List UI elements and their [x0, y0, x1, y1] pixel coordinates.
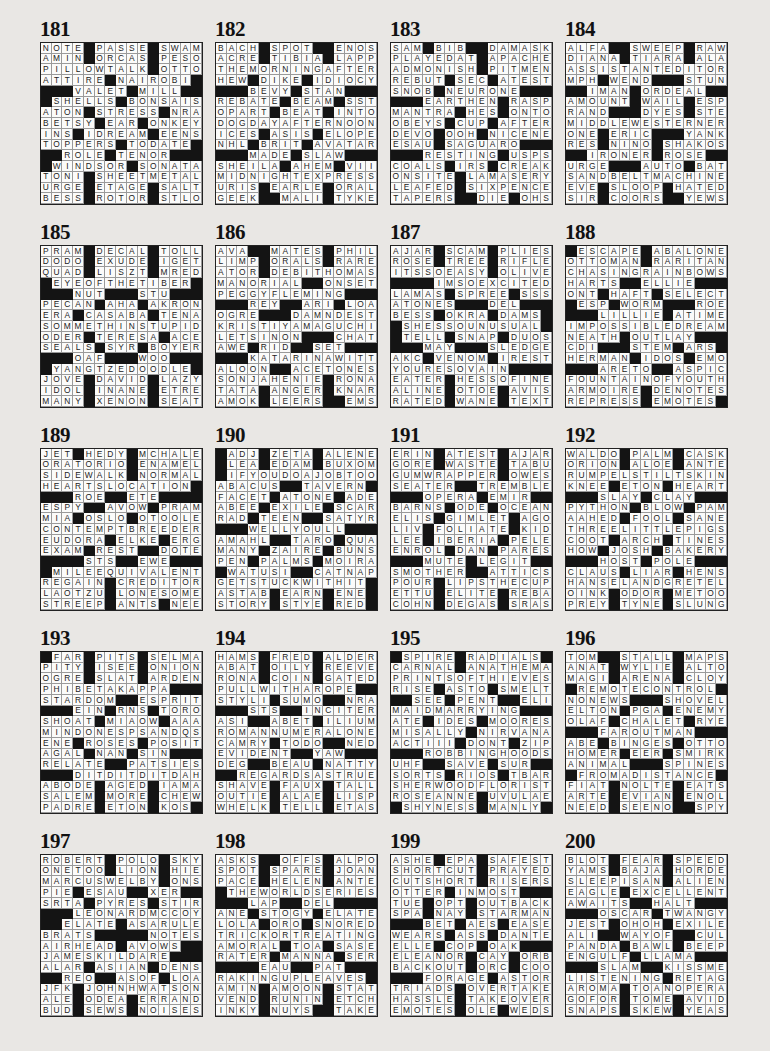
- black-square: [191, 802, 202, 813]
- letter-cell: I: [313, 289, 324, 300]
- letter-cell: E: [148, 492, 159, 503]
- letter-cell: U: [520, 332, 531, 343]
- black-square: [95, 973, 106, 984]
- letter-cell: E: [566, 706, 577, 717]
- letter-cell: A: [127, 684, 138, 695]
- black-square: [52, 150, 63, 161]
- letter-cell: I: [587, 150, 598, 161]
- letter-cell: S: [455, 802, 466, 813]
- black-square: [641, 695, 652, 706]
- letter-cell: N: [695, 909, 706, 920]
- letter-cell: A: [434, 97, 445, 108]
- letter-cell: A: [313, 481, 324, 492]
- letter-cell: A: [641, 876, 652, 887]
- letter-cell: N: [116, 75, 127, 86]
- letter-cell: V: [116, 503, 127, 514]
- letter-cell: C: [641, 535, 652, 546]
- letter-cell: A: [706, 503, 717, 514]
- letter-cell: O: [41, 332, 52, 343]
- letter-cell: Y: [366, 75, 377, 86]
- letter-cell: Y: [455, 727, 466, 738]
- letter-cell: M: [706, 706, 717, 717]
- letter-cell: R: [566, 396, 577, 407]
- letter-cell: O: [706, 140, 717, 151]
- letter-cell: S: [270, 706, 281, 717]
- black-square: [716, 770, 727, 781]
- black-square: [148, 129, 159, 140]
- letter-cell: L: [291, 887, 302, 898]
- letter-cell: A: [531, 909, 542, 920]
- black-square: [498, 599, 509, 610]
- letter-cell: P: [41, 300, 52, 311]
- letter-cell: I: [345, 353, 356, 364]
- letter-cell: R: [641, 909, 652, 920]
- letter-cell: Y: [191, 375, 202, 386]
- letter-cell: B: [259, 589, 270, 600]
- black-square: [62, 909, 73, 920]
- letter-cell: E: [170, 567, 181, 578]
- letter-cell: E: [509, 343, 520, 354]
- letter-cell: H: [531, 193, 542, 204]
- letter-cell: R: [455, 257, 466, 268]
- letter-cell: E: [423, 855, 434, 866]
- letter-cell: S: [181, 802, 192, 813]
- letter-cell: L: [706, 54, 717, 65]
- letter-cell: M: [684, 749, 695, 760]
- letter-cell: S: [716, 781, 727, 792]
- letter-cell: N: [138, 150, 149, 161]
- letter-cell: V: [345, 161, 356, 172]
- black-square: [673, 802, 684, 813]
- black-square: [291, 150, 302, 161]
- letter-cell: G: [216, 193, 227, 204]
- black-square: [356, 749, 367, 760]
- letter-cell: A: [291, 257, 302, 268]
- letter-cell: J: [520, 449, 531, 460]
- letter-cell: A: [445, 470, 456, 481]
- letter-cell: A: [148, 919, 159, 930]
- letter-cell: O: [598, 995, 609, 1006]
- letter-cell: H: [216, 75, 227, 86]
- letter-cell: M: [270, 246, 281, 257]
- letter-cell: T: [641, 524, 652, 535]
- black-square: [323, 695, 334, 706]
- letter-cell: P: [334, 684, 345, 695]
- letter-cell: T: [366, 984, 377, 995]
- letter-cell: R: [191, 524, 202, 535]
- letter-cell: E: [609, 578, 620, 589]
- letter-cell: S: [191, 759, 202, 770]
- letter-cell: O: [706, 792, 717, 803]
- letter-cell: T: [356, 759, 367, 770]
- letter-cell: C: [159, 792, 170, 803]
- black-square: [620, 343, 631, 354]
- black-square: [95, 716, 106, 727]
- letter-cell: G: [216, 578, 227, 589]
- black-square: [445, 396, 456, 407]
- letter-cell: N: [181, 962, 192, 973]
- letter-cell: E: [159, 524, 170, 535]
- black-square: [566, 727, 577, 738]
- letter-cell: O: [95, 695, 106, 706]
- letter-cell: P: [541, 97, 552, 108]
- letter-cell: D: [445, 183, 456, 194]
- letter-cell: I: [52, 663, 63, 674]
- letter-cell: P: [366, 567, 377, 578]
- letter-cell: O: [84, 513, 95, 524]
- black-square: [598, 343, 609, 354]
- letter-cell: A: [566, 930, 577, 941]
- letter-cell: A: [302, 310, 313, 321]
- letter-cell: S: [127, 652, 138, 663]
- letter-cell: L: [577, 706, 588, 717]
- letter-cell: R: [170, 267, 181, 278]
- letter-cell: K: [259, 930, 270, 941]
- letter-cell: A: [291, 759, 302, 770]
- black-square: [663, 599, 674, 610]
- letter-cell: T: [170, 64, 181, 75]
- letter-cell: T: [280, 684, 291, 695]
- crossword-grid: ERINATESTAJARGOREWASTETABUGUMWRAPPEROWES…: [390, 448, 553, 611]
- letter-cell: E: [237, 193, 248, 204]
- letter-cell: I: [423, 738, 434, 749]
- letter-cell: L: [423, 161, 434, 172]
- letter-cell: R: [116, 332, 127, 343]
- black-square: [41, 652, 52, 663]
- letter-cell: I: [434, 278, 445, 289]
